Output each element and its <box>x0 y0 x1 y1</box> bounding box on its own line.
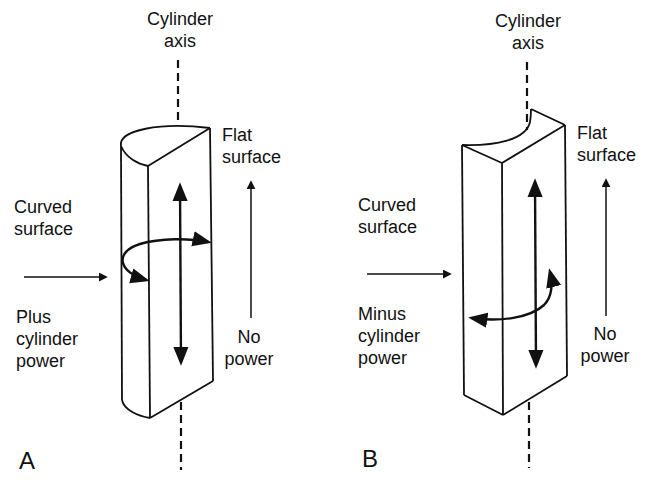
panel-b-drawing <box>367 62 606 468</box>
axis-label-b-line2: axis <box>484 32 572 54</box>
no-power-a-line2: power <box>218 348 280 370</box>
axis-label-b-line1: Cylinder <box>484 10 572 32</box>
power-label-a-line2: cylinder <box>16 328 78 350</box>
panel-letter-a: A <box>19 448 35 474</box>
curved-label-a-line1: Curved <box>14 196 73 218</box>
axis-label-a-line2: axis <box>136 30 224 52</box>
curved-label-b-line2: surface <box>358 216 417 238</box>
vertical-meridian-arrow-b <box>535 182 536 365</box>
vertical-meridian-arrow-a <box>180 186 181 362</box>
panel-letter-b: B <box>362 446 378 472</box>
axis-label-b: Cylinder axis <box>484 10 572 54</box>
power-label-b-line2: cylinder <box>358 325 420 347</box>
flat-surface-label-a: Flat surface <box>222 124 281 168</box>
diagram-canvas <box>0 0 655 480</box>
minus-cylinder-lens-shape <box>462 109 567 415</box>
plus-cylinder-lens-shape <box>121 126 213 418</box>
power-label-b-line1: Minus <box>358 303 420 325</box>
flat-label-b-line1: Flat <box>577 122 636 144</box>
no-power-label-a: No power <box>218 326 280 370</box>
plus-cylinder-power-label: Plus cylinder power <box>16 306 78 372</box>
no-power-label-b: No power <box>574 323 636 367</box>
power-label-a-line3: power <box>16 350 78 372</box>
flat-surface-label-b: Flat surface <box>577 122 636 166</box>
axis-label-a: Cylinder axis <box>136 8 224 52</box>
curved-label-b-line1: Curved <box>358 194 417 216</box>
curved-label-a-line2: surface <box>14 218 73 240</box>
minus-cylinder-power-label: Minus cylinder power <box>358 303 420 369</box>
curved-surface-label-b: Curved surface <box>358 194 417 238</box>
panel-a-drawing <box>24 60 251 470</box>
flat-label-a-line1: Flat <box>222 124 281 146</box>
no-power-b-line2: power <box>574 345 636 367</box>
curved-power-arrow-b <box>472 272 552 319</box>
axis-label-a-line1: Cylinder <box>136 8 224 30</box>
no-power-b-line1: No <box>574 323 636 345</box>
no-power-a-line1: No <box>218 326 280 348</box>
flat-label-b-line2: surface <box>577 144 636 166</box>
power-label-b-line3: power <box>358 347 420 369</box>
curved-surface-label-a: Curved surface <box>14 196 73 240</box>
power-label-a-line1: Plus <box>16 306 78 328</box>
flat-label-a-line2: surface <box>222 146 281 168</box>
curved-power-arrow-a <box>123 239 208 280</box>
